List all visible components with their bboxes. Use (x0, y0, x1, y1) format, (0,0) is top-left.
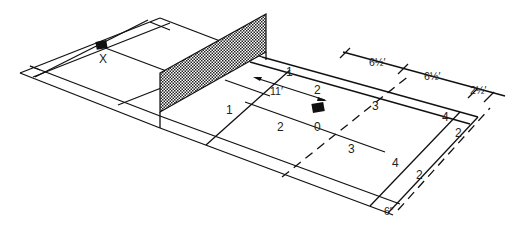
zone-1-near: 1 (226, 103, 233, 117)
zone-2-out-a: 2 (455, 126, 462, 140)
court-svg: X 0 1 1 2 2 3 3 4 4 2 2 11′ 6½′ 6½′ 2½′ … (0, 0, 518, 227)
zone-2-out-b: 2 (416, 168, 423, 182)
dim-6half-a: 6½′ (369, 56, 386, 68)
zone-4-a: 4 (442, 110, 449, 124)
zone-3-a: 3 (372, 99, 379, 113)
dim-2half: 2½′ (470, 84, 487, 96)
zone-4-b: 4 (392, 156, 399, 170)
dim-11ft: 11′ (270, 85, 283, 97)
o-label: 0 (314, 120, 321, 134)
net (160, 14, 266, 128)
zone-2-b: 2 (277, 120, 284, 134)
zone-1-far: 1 (286, 65, 293, 79)
badminton-court-diagram: X 0 1 1 2 2 3 3 4 4 2 2 11′ 6½′ 6½′ 2½′ … (0, 0, 518, 227)
zone-3-b: 3 (348, 142, 355, 156)
x-label: X (99, 52, 107, 66)
zone-2-a: 2 (314, 83, 321, 97)
o-marker-icon (311, 102, 324, 113)
dim-6in: 6″ (384, 205, 394, 217)
dim-6half-b: 6½′ (424, 70, 441, 82)
